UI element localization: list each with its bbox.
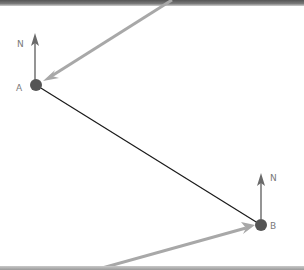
connector-line-a-b (36, 85, 261, 225)
incoming-arrow-to-b (95, 222, 255, 270)
point-b-marker (255, 219, 267, 231)
bottom-border-bar (0, 266, 304, 270)
point-a-marker (30, 79, 42, 91)
north-label-a: N (17, 39, 24, 49)
north-arrow-a (31, 33, 39, 80)
north-arrow-b (257, 173, 265, 219)
point-a-label: A (16, 83, 23, 93)
point-b-label: B (270, 221, 276, 231)
bearing-diagram: N N A B (0, 0, 304, 270)
north-label-b: N (270, 173, 277, 183)
incoming-arrow-to-a (43, 0, 172, 81)
